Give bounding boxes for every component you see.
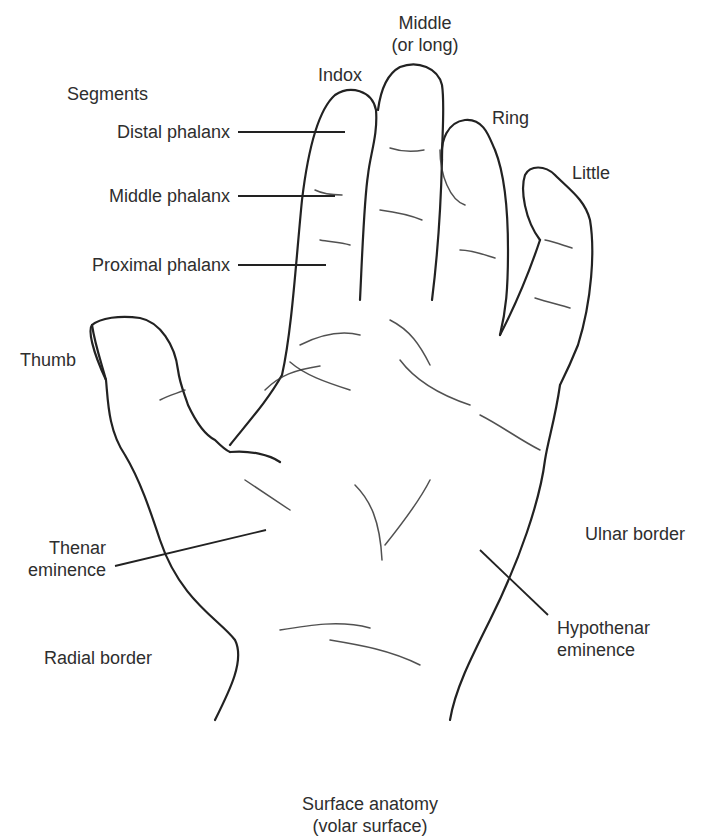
palm-crease (480, 415, 540, 450)
finger-crease (320, 240, 350, 245)
finger-crease (380, 210, 422, 220)
middle-finger-outline (378, 64, 443, 300)
caption-line2: (volar surface) (260, 815, 480, 837)
palm-crease (265, 366, 320, 390)
thenar-label-line2: eminence (0, 559, 106, 581)
radial-border-label: Radial border (44, 647, 152, 669)
palm-crease (300, 333, 360, 345)
thenar-label-line1: Thenar (0, 537, 106, 559)
thumb-crease (160, 390, 185, 400)
palm-crease (245, 480, 290, 510)
hand-anatomy-figure: Middle (or long) Indox Ring Little Thumb… (0, 0, 720, 840)
distal-phalanx-label: Distal phalanx (40, 121, 230, 143)
hypothenar-leader (480, 550, 548, 615)
finger-crease (545, 240, 572, 248)
finger-crease (390, 148, 424, 151)
wrist-crease (280, 624, 370, 630)
figure-caption: Surface anatomy (volar surface) (260, 793, 480, 837)
index-finger-label: Indox (318, 64, 362, 86)
palm-crease (385, 480, 430, 545)
ulnar-border-outline (450, 385, 560, 720)
palm-crease (355, 485, 382, 560)
palm-crease (400, 360, 470, 405)
ulnar-border-label: Ulnar border (585, 523, 685, 545)
thenar-leader (115, 530, 266, 566)
middle-finger-label-line2: (or long) (370, 34, 480, 56)
middle-finger-label-line1: Middle (370, 12, 480, 34)
segments-heading: Segments (67, 83, 148, 105)
middle-finger-label: Middle (or long) (370, 12, 480, 56)
thumb-web-fold (230, 452, 280, 462)
caption-line1: Surface anatomy (260, 793, 480, 815)
thumb-label: Thumb (20, 349, 76, 371)
ring-finger-label: Ring (492, 107, 529, 129)
hypothenar-eminence-label: Hypothenar eminence (557, 617, 650, 661)
wrist-crease (330, 640, 420, 665)
thenar-eminence-label: Thenar eminence (0, 537, 106, 581)
finger-crease (535, 298, 570, 308)
finger-crease (460, 250, 495, 258)
finger-crease (315, 190, 342, 195)
ring-finger-outline (442, 120, 508, 335)
little-finger-label: Little (572, 162, 610, 184)
proximal-phalanx-label: Proximal phalanx (20, 254, 230, 276)
hypothenar-label-line1: Hypothenar (557, 617, 650, 639)
ring-finger-crease (440, 150, 465, 205)
hypothenar-label-line2: eminence (557, 639, 650, 661)
little-finger-outline (523, 168, 592, 386)
middle-phalanx-label: Middle phalanx (40, 185, 230, 207)
palm-crease (390, 320, 430, 365)
index-finger-outline (230, 90, 376, 445)
